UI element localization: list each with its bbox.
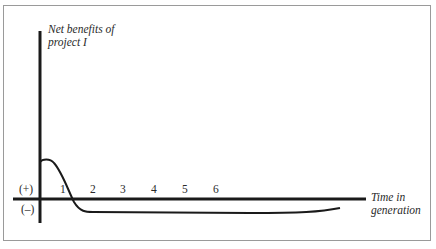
- positive-sign: (+): [19, 183, 33, 196]
- x-axis-label: Time in generation: [371, 191, 421, 217]
- negative-sign: (–): [21, 203, 34, 216]
- tick-4: 4: [151, 183, 157, 196]
- tick-3: 3: [120, 183, 126, 196]
- y-axis-label-line1: Net benefits of: [48, 23, 114, 36]
- y-axis-label-line2: project I: [48, 36, 114, 49]
- tick-6: 6: [213, 183, 219, 196]
- tick-5: 5: [182, 183, 188, 196]
- tick-2: 2: [90, 183, 96, 196]
- y-axis-label: Net benefits of project I: [48, 23, 114, 49]
- x-axis-label-line2: generation: [371, 204, 421, 217]
- tick-1: 1: [60, 183, 66, 196]
- x-axis-label-line1: Time in: [371, 191, 421, 204]
- net-benefit-curve: [40, 160, 340, 214]
